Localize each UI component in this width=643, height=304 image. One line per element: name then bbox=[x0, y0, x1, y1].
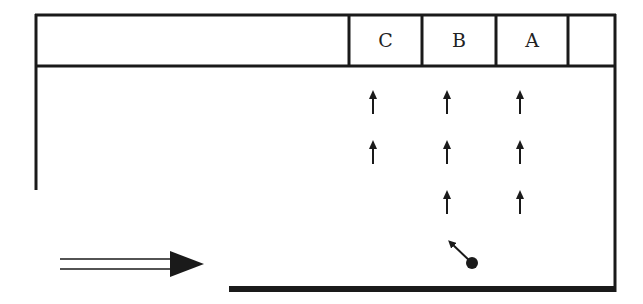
diagram-canvas: CBA bbox=[0, 0, 643, 304]
header-cells: CBA bbox=[349, 15, 568, 66]
arrowhead-icon bbox=[443, 90, 451, 99]
incoming-arrow-icon bbox=[60, 251, 204, 277]
flow-arrows bbox=[369, 90, 524, 214]
cell-label: A bbox=[524, 29, 539, 51]
cell-label: C bbox=[378, 29, 393, 51]
arrowhead-icon bbox=[369, 140, 377, 149]
arrowhead-icon bbox=[443, 190, 451, 199]
frame bbox=[35, 14, 616, 292]
arrowhead-icon bbox=[516, 190, 524, 199]
arrowhead-icon bbox=[443, 140, 451, 149]
arrowhead-icon bbox=[516, 140, 524, 149]
ball bbox=[451, 243, 478, 269]
cell-label: B bbox=[452, 29, 466, 51]
arrowhead-icon bbox=[516, 90, 524, 99]
ball-dot bbox=[466, 257, 478, 269]
arrowhead-icon bbox=[369, 90, 377, 99]
